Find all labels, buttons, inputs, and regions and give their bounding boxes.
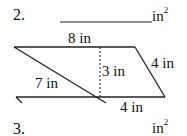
label-diagonal: 7 in [35, 76, 58, 91]
label-top: 8 in [68, 31, 91, 46]
label-height: 3 in [102, 64, 125, 79]
left-tick [16, 97, 22, 103]
problem-3-unit: in2 [152, 121, 168, 136]
label-right-side: 4 in [151, 56, 174, 71]
diagonal [14, 47, 106, 103]
problem-3-number: 3. [13, 121, 25, 136]
label-bottom-segment: 4 in [120, 100, 143, 115]
